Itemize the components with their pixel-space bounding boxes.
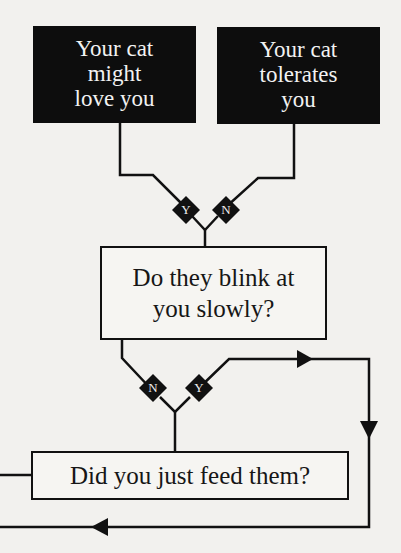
node-blink-slowly: Do they blink at you slowly? — [100, 246, 327, 340]
arrow-right-icon — [297, 350, 313, 368]
node-text: Your cat — [76, 37, 154, 62]
node-just-fed: Did you just feed them? — [31, 451, 349, 500]
node-text: Did you just feed them? — [70, 462, 310, 489]
branch-label-no-top: N — [215, 199, 237, 221]
branch-label-yes-bottom: Y — [188, 377, 210, 399]
arrow-down-icon — [360, 421, 378, 439]
node-text: you slowly? — [153, 293, 275, 324]
node-text: tolerates — [260, 63, 338, 88]
node-text: love you — [75, 87, 155, 112]
node-text: you — [281, 88, 316, 113]
node-tolerates-you: Your cat tolerates you — [217, 27, 380, 124]
node-text: might — [88, 62, 142, 87]
branch-label-yes-top: Y — [175, 199, 197, 221]
branch-label-no-bottom: N — [142, 377, 164, 399]
node-text: Your cat — [260, 38, 338, 63]
arrow-left-icon — [91, 518, 108, 536]
node-text: Do they blink at — [133, 262, 295, 293]
node-might-love-you: Your cat might love you — [33, 26, 196, 123]
